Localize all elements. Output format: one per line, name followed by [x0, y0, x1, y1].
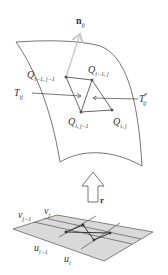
surface-vertices: [65, 76, 114, 114]
label-q-im1-j: Qi−1, j: [88, 64, 109, 77]
mapping-label: r: [100, 195, 104, 205]
surface-mapping-diagram: nij Qi−1, j−1 Qi−1, j Qi, j−1 Qi, j Tij …: [0, 0, 168, 275]
label-v-jm1: vj−1: [18, 209, 31, 222]
label-q-i-j: Qi, j: [113, 116, 127, 129]
parameter-plane: [13, 215, 153, 261]
surface-triangles: [66, 77, 112, 112]
label-u-im1: ui−1: [34, 242, 48, 255]
t-ij-star-arrow: [93, 98, 138, 99]
surface-patch: [16, 41, 142, 166]
label-t-ij: Tij: [14, 87, 23, 100]
normal-arrow: [66, 34, 80, 77]
label-u-i: ui: [64, 253, 71, 266]
label-q-im1-jm1: Qi−1, j−1: [27, 69, 55, 82]
label-q-i-jm1: Qi, j−1: [68, 116, 89, 129]
label-v-j: vj: [44, 205, 50, 218]
label-t-ij-star: T*ij: [139, 91, 148, 106]
normal-label: nij: [76, 15, 85, 28]
